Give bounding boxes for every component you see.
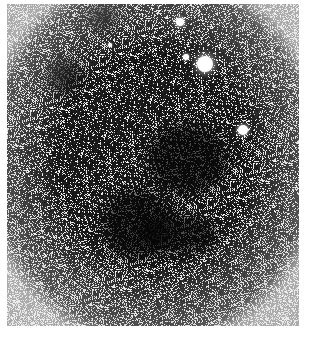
star [108,43,112,47]
vignette-edge [7,4,299,326]
star [238,125,248,135]
star-field-image [7,4,299,326]
star [197,56,213,72]
star [183,54,189,60]
star [176,18,184,26]
